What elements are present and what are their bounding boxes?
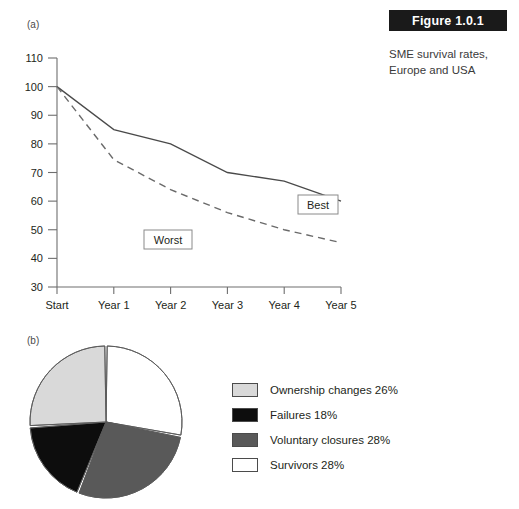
y-tick-label: 40 <box>31 252 43 264</box>
x-tick-label: Year 2 <box>155 299 186 311</box>
figure-number-label: Figure 1.0.1 <box>412 14 484 28</box>
x-axis-tick-labels: StartYear 1Year 2Year 3Year 4Year 5 <box>45 299 356 311</box>
series-line-best <box>57 87 341 202</box>
panel-a-label: (a) <box>27 19 39 30</box>
y-tick-label: 70 <box>31 167 43 179</box>
callout-worst-label: Worst <box>154 234 183 246</box>
callout-worst: Worst <box>144 230 192 249</box>
x-tick-label: Year 3 <box>212 299 243 311</box>
legend-swatch <box>232 383 258 397</box>
pie-chart-svg <box>24 340 214 505</box>
y-axis: 11010090807060504030 <box>25 52 57 293</box>
figure-caption: SME survival rates, Europe and USA <box>389 47 513 78</box>
x-tick-label: Year 4 <box>268 299 299 311</box>
figure-number-banner: Figure 1.0.1 <box>389 10 507 31</box>
legend-swatch <box>232 458 258 472</box>
y-tick-label: 50 <box>31 224 43 236</box>
line-chart-svg: 11010090807060504030 StartYear 1Year 2Ye… <box>0 38 380 313</box>
business-outcome-pie-chart <box>24 340 214 505</box>
y-tick-label: 110 <box>25 52 43 64</box>
legend-row: Survivors 28% <box>232 452 497 477</box>
y-axis-tick-labels: 11010090807060504030 <box>25 52 43 293</box>
y-tick-label: 60 <box>31 195 43 207</box>
series-line-worst <box>57 87 341 243</box>
callout-best: Best <box>298 195 338 214</box>
y-tick-label: 90 <box>31 109 43 121</box>
x-tick-label: Start <box>45 299 68 311</box>
legend-row: Voluntary closures 28% <box>232 427 497 452</box>
pie-slice-group <box>30 346 182 498</box>
y-axis-ticks <box>48 58 57 287</box>
x-tick-label: Year 5 <box>325 299 356 311</box>
legend-swatch <box>232 433 258 447</box>
pie-chart-legend: Ownership changes 26%Failures 18%Volunta… <box>232 377 497 477</box>
legend-label: Failures 18% <box>270 409 337 421</box>
y-tick-label: 30 <box>31 281 43 293</box>
y-tick-label: 80 <box>31 138 43 150</box>
legend-row: Failures 18% <box>232 402 497 427</box>
x-axis: StartYear 1Year 2Year 3Year 4Year 5 <box>45 287 356 311</box>
legend-label: Survivors 28% <box>270 459 344 471</box>
survival-rate-line-chart: 11010090807060504030 StartYear 1Year 2Ye… <box>0 38 380 313</box>
x-tick-label: Year 1 <box>98 299 129 311</box>
pie-slice <box>106 346 182 435</box>
legend-swatch <box>232 408 258 422</box>
legend-label: Voluntary closures 28% <box>270 434 390 446</box>
pie-slice <box>30 346 106 426</box>
legend-row: Ownership changes 26% <box>232 377 497 402</box>
callout-best-label: Best <box>307 199 329 211</box>
x-axis-ticks <box>57 287 341 294</box>
y-tick-label: 100 <box>25 81 43 93</box>
legend-label: Ownership changes 26% <box>270 384 398 396</box>
